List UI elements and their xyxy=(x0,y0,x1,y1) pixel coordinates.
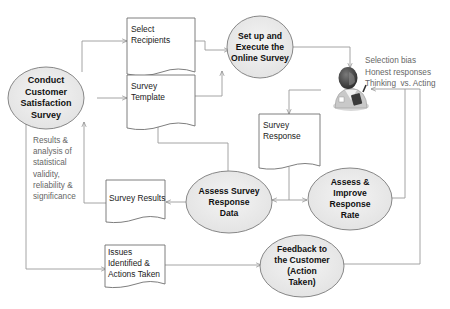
process-label-assess-rate: Assess & Improve Response Rate xyxy=(308,172,392,226)
connector-assess-data-to-survey-template xyxy=(158,118,228,171)
doc-label-survey-results: Survey Results xyxy=(109,193,165,204)
respondent-person-icon xyxy=(333,67,369,111)
process-label-feedback: Feedback to the Customer (Action Taken) xyxy=(260,239,344,293)
connector-survey-template-to-setup xyxy=(195,71,222,96)
connector-conduct-to-select-recipients xyxy=(82,41,127,72)
process-label-setup-execute: Set up and Execute the Online Survey xyxy=(227,22,293,72)
connector-respondent-to-survey-response xyxy=(289,90,321,114)
connectors xyxy=(26,41,420,269)
note-respondent-concerns: Selection bias Honest responses Thinking… xyxy=(365,55,436,90)
doc-label-survey-response: Survey Response xyxy=(263,120,301,142)
connector-survey-results-to-conduct xyxy=(84,122,106,203)
process-label-conduct-survey: Conduct Customer Satisfaction Survey xyxy=(8,70,84,126)
process-label-assess-data: Assess Survey Response Data xyxy=(186,178,272,226)
doc-label-survey-template: Survey Template xyxy=(131,81,165,103)
doc-label-issues-actions: Issues Identified & Actions Taken xyxy=(108,247,160,280)
doc-label-select-recipients: Select Recipients xyxy=(131,24,170,46)
connector-setup-to-respondent xyxy=(292,47,350,68)
note-results-analysis: Results & analysis of statistical validi… xyxy=(33,135,76,202)
connector-select-recipients-to-setup xyxy=(195,41,229,50)
